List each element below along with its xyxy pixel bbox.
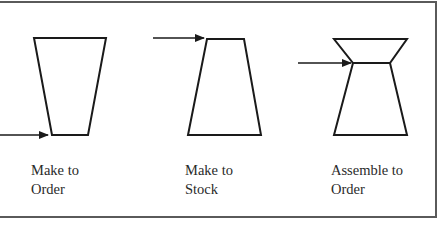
make-to-stock-label: Make to Stock (185, 161, 233, 199)
make-to-stock-label-line2: Stock (185, 180, 233, 199)
make-to-stock-label-line1: Make to (185, 161, 233, 180)
make-to-stock-shape (188, 39, 261, 135)
make-to-order-label: Make to Order (31, 161, 79, 199)
make-to-order-shape (34, 38, 106, 135)
make-to-order-label-line1: Make to (31, 161, 79, 180)
make-to-stock-group (153, 38, 261, 135)
assemble-to-order-group (298, 39, 407, 135)
assemble-to-order-bottom-shape (334, 63, 407, 135)
assemble-to-order-top-shape (334, 39, 407, 63)
make-to-order-label-line2: Order (31, 180, 79, 199)
make-to-order-group (0, 38, 106, 135)
assemble-to-order-label-line2: Order (331, 180, 403, 199)
assemble-to-order-label: Assemble to Order (331, 161, 403, 199)
assemble-to-order-label-line1: Assemble to (331, 161, 403, 180)
